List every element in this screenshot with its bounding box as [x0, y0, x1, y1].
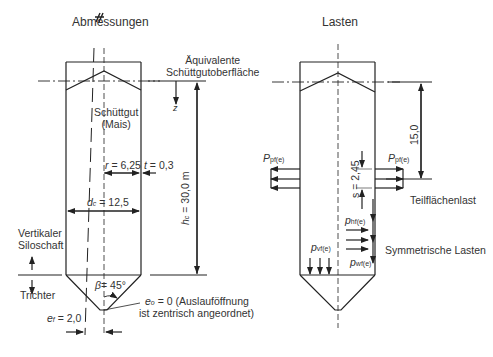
shaft-label: Vertikaler Siloschaft [18, 228, 64, 251]
thickness-value: = 0,3 [147, 159, 174, 171]
patch-load-left-label: Ppf(e) [263, 153, 284, 165]
phf-subscript: hf(e) [351, 218, 365, 225]
depth-label: 15,0 [409, 125, 421, 145]
height-value: = 30,0 m [179, 172, 191, 216]
ppf-left-subscript: pf(e) [270, 156, 284, 163]
radius-label: r = 6,25 [105, 160, 141, 172]
ppf-right-subscript: pf(e) [395, 156, 409, 163]
s-value: = 2,45 [349, 160, 361, 192]
diameter-label: dc = 12,5 [87, 197, 129, 209]
symmetric-loads-caption: Symmetrische Lasten [385, 245, 486, 257]
hopper-angle-label: β= 45° [95, 280, 126, 292]
patch-height-label: s = 2,45 [350, 160, 362, 198]
diameter-value: = 12,5 [96, 196, 128, 208]
material-line2: (Mais) [94, 119, 138, 131]
ppf-right-symbol: P [388, 152, 395, 164]
equivalent-surface-label: Äquivalente Schüttgutoberfläche [166, 55, 259, 78]
pvf-subscript: vf(e) [317, 245, 331, 252]
eo-value: = 0 (Auslauföffnung [155, 295, 249, 307]
patch-load-right-label: Ppf(e) [388, 153, 409, 165]
dimensions-title: Abmessungen [72, 16, 149, 29]
equivalent-surface-line1: Äquivalente [166, 55, 259, 67]
ppf-left-symbol: P [263, 152, 270, 164]
eo-note: ist zentrisch angeordnet) [139, 308, 254, 320]
horizontal-pressure-label: phf(e) [345, 215, 365, 227]
material-label: Schüttgut (Mais) [94, 107, 138, 130]
radius-value: = 6,25 [109, 159, 141, 171]
pwf-subscript: wf(e) [356, 260, 372, 267]
height-label: hc = 30,0 m [180, 172, 192, 225]
wall-friction-label: pwf(e) [350, 257, 371, 269]
equivalent-surface-line2: Schüttgutoberfläche [166, 67, 259, 79]
hopper-angle-value: = 45° [101, 279, 126, 291]
patch-load-caption: Teilflächenlast [410, 195, 476, 207]
shaft-line1: Vertikaler [18, 228, 64, 240]
loads-title: Lasten [322, 16, 358, 29]
s-symbol: s [349, 193, 361, 198]
hopper-label: Trichter [20, 290, 55, 302]
height-subscript: c [183, 216, 190, 220]
material-line1: Schüttgut [94, 107, 138, 119]
outlet-eccentricity-label: eo = 0 (Auslauföffnung ist zentrisch ang… [145, 296, 254, 319]
thickness-label: t = 0,3 [144, 160, 174, 172]
height-symbol: h [179, 219, 191, 225]
vertical-pressure-label: pvf(e) [311, 242, 331, 254]
fill-eccentricity-label: ef = 2,0 [47, 313, 81, 325]
z-axis-label: z [173, 104, 178, 114]
ef-value: = 2,0 [55, 312, 82, 324]
shaft-line2: Siloschaft [18, 240, 64, 252]
